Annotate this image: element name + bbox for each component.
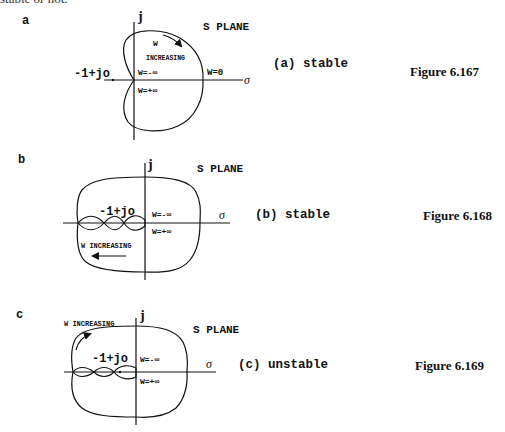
s-plane-label: S PLANE bbox=[197, 163, 244, 175]
w-increasing-label-1: W bbox=[153, 39, 158, 48]
figure-b-letter: b bbox=[18, 153, 25, 167]
j-axis-label: j bbox=[139, 308, 145, 323]
critical-point-label: -1+jo bbox=[99, 205, 135, 219]
figure-a-number: Figure 6.167 bbox=[410, 64, 479, 80]
w-increasing-label: W INCREASING bbox=[81, 242, 131, 250]
figure-c-letter: c bbox=[16, 308, 23, 322]
w-neg-inf-label: W=-∞ bbox=[138, 68, 157, 77]
sigma-axis-label: σ bbox=[244, 73, 251, 87]
w-pos-inf-label: W=+∞ bbox=[152, 227, 171, 236]
critical-point-dot bbox=[119, 371, 121, 373]
critical-point-dot bbox=[112, 79, 115, 82]
sigma-axis-label: σ bbox=[206, 357, 213, 371]
j-axis-label: j bbox=[147, 157, 153, 172]
w-increasing-label: W INCREASING bbox=[64, 320, 114, 328]
sigma-axis-label: σ bbox=[219, 208, 226, 222]
figure-a: a W INCREASING j S PLANE -1+jo W=-∞ W=+∞… bbox=[22, 9, 251, 140]
figure-a-caption: (a) stable bbox=[273, 57, 348, 71]
figure-a-letter: a bbox=[22, 14, 29, 28]
s-plane-label: S PLANE bbox=[203, 21, 250, 33]
nyquist-curve bbox=[124, 31, 204, 131]
w-zero-label: W=0 bbox=[207, 68, 223, 78]
w-pos-inf-label: W=+∞ bbox=[138, 86, 157, 95]
figure-c-number: Figure 6.169 bbox=[415, 358, 484, 374]
w-neg-inf-label: W=-∞ bbox=[140, 355, 159, 364]
figure-c: c W INCREASING j S PLANE -1+jo W=-∞ W=+∞… bbox=[16, 308, 240, 425]
w-neg-inf-label: W=-∞ bbox=[152, 210, 171, 219]
figure-b-caption: (b) stable bbox=[255, 208, 330, 222]
critical-point-label: -1+jo bbox=[74, 67, 110, 81]
w-pos-inf-label: W=+∞ bbox=[140, 377, 159, 386]
critical-point-label: -1+jo bbox=[92, 352, 128, 366]
figure-c-caption: (c) unstable bbox=[238, 358, 328, 372]
w-increasing-label-2: INCREASING bbox=[146, 55, 185, 62]
figure-b: b j S PLANE -1+jo W=-∞ W=+∞ W INCREASING… bbox=[18, 153, 244, 280]
j-axis-label: j bbox=[137, 9, 143, 24]
nyquist-curve bbox=[77, 177, 200, 272]
s-plane-label: S PLANE bbox=[193, 324, 240, 336]
figure-b-number: Figure 6.168 bbox=[423, 208, 492, 224]
